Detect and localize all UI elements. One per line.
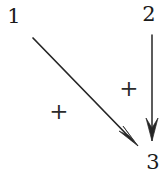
- node-label-2: 3: [141, 152, 165, 173]
- edge-3-to-2-arrowhead-left: [146, 118, 152, 141]
- edge-3-to-2: [146, 35, 158, 141]
- node-label-3: 2: [137, 4, 161, 25]
- edge-3-to-2-arrowhead-right: [152, 118, 158, 141]
- edge-sign-1-to-2: +: [47, 100, 71, 123]
- node-label-1: 1: [2, 6, 26, 27]
- signed-graph-diagram: 1 2 3 + +: [0, 0, 167, 182]
- edge-sign-3-to-2: +: [117, 77, 141, 100]
